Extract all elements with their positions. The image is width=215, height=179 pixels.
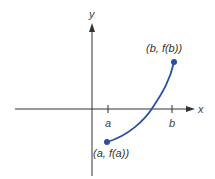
x-axis-arrow-icon — [186, 106, 195, 112]
function-curve — [107, 62, 174, 142]
x-axis-label: x — [197, 103, 204, 115]
function-graph: x y a b (a, f(a)) (b, f(b)) — [0, 0, 215, 179]
point-a-label: (a, f(a)) — [93, 147, 129, 159]
y-axis-label: y — [88, 8, 96, 20]
point-a-marker — [104, 139, 110, 145]
tick-label-b: b — [169, 117, 175, 129]
point-b-label: (b, f(b)) — [146, 42, 182, 54]
y-axis-arrow-icon — [89, 23, 95, 32]
diagram-canvas: x y a b (a, f(a)) (b, f(b)) — [0, 0, 215, 179]
point-b-marker — [171, 59, 177, 65]
tick-label-a: a — [105, 117, 111, 129]
